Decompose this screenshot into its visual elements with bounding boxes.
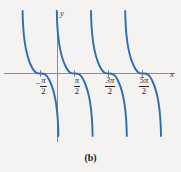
figure-caption: (b) [0, 152, 181, 163]
fraction: 3π2 [105, 76, 116, 97]
fraction-denominator: 2 [139, 87, 150, 97]
fraction: π2 [74, 76, 80, 97]
fraction: 5π2 [139, 76, 150, 97]
x-axis-label: x [170, 69, 174, 79]
fraction: π2 [40, 76, 46, 97]
x-tick-label-neg-pi-over-2: −π2 [24, 76, 58, 97]
y-axis-label: y [60, 8, 64, 18]
x-tick-label-3pi-over-2: 3π2 [93, 76, 127, 97]
minus-sign: − [35, 79, 40, 88]
fraction-denominator: 2 [40, 87, 46, 97]
fraction-denominator: 2 [74, 87, 80, 97]
x-tick-label-pi-over-2: π2 [60, 76, 94, 97]
figure-panel: y x −π2 π2 3π2 5π2 (b) [0, 0, 181, 172]
fraction-denominator: 2 [105, 87, 116, 97]
x-tick-label-5pi-over-2: 5π2 [127, 76, 161, 97]
